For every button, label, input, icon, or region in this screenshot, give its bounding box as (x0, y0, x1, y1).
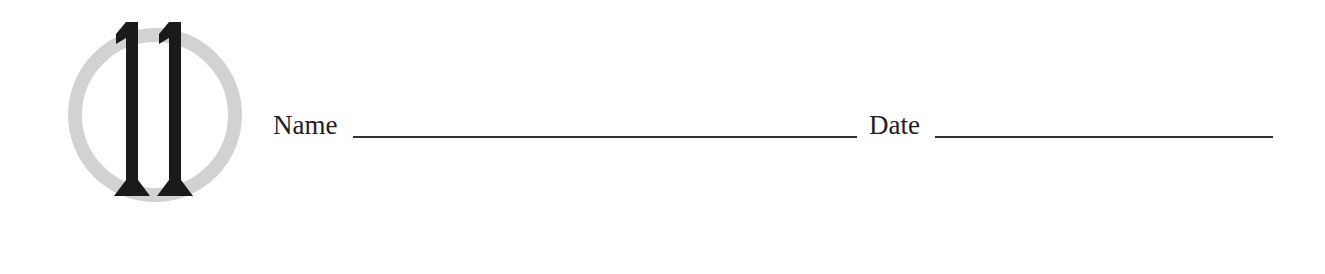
name-label: Name (273, 112, 337, 139)
chapter-number-11-icon (66, 22, 246, 202)
date-field[interactable] (935, 136, 1273, 138)
chapter-emblem: 11 (66, 22, 246, 202)
date-label: Date (869, 112, 920, 139)
name-field[interactable] (353, 136, 857, 138)
